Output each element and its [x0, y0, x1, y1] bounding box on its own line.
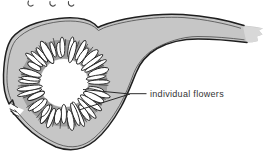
- flower-gap-shading: [99, 85, 108, 86]
- diagram-canvas: individual flowers: [0, 0, 266, 159]
- clipped-text-fragments-icon: [28, 1, 74, 6]
- individual-flowers-label: individual flowers: [150, 89, 224, 99]
- stalk-torn-end: [243, 26, 263, 43]
- individual-flower: [60, 37, 66, 57]
- fig-section-diagram: individual flowers: [0, 0, 266, 159]
